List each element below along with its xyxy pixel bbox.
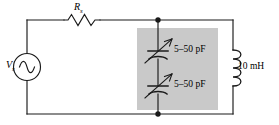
resistor-zigzag (64, 15, 100, 26)
source-label-subscript: s (12, 65, 15, 73)
source-label: Vs (6, 60, 15, 73)
resistor-label-subscript: s (80, 7, 83, 15)
circuit-diagram: Rs Vs 5–50 pF 5–50 pF 10 mH (0, 0, 279, 125)
capacitor-bottom-label: 5–50 pF (174, 80, 205, 90)
junction-dot-top (155, 17, 160, 22)
resistor-label: Rs (74, 2, 83, 15)
junction-dot-bottom (155, 111, 160, 116)
capacitor-top-label: 5–50 pF (174, 45, 205, 55)
tuning-capacitor-block-shading (137, 28, 218, 110)
inductor-label: 10 mH (238, 62, 264, 72)
sine-wave-icon (20, 61, 35, 72)
